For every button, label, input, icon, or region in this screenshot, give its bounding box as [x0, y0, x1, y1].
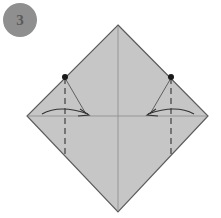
origami-diagram	[0, 0, 221, 218]
paper-square	[27, 25, 208, 212]
left-reference-dot	[62, 74, 68, 80]
right-reference-dot	[168, 74, 174, 80]
